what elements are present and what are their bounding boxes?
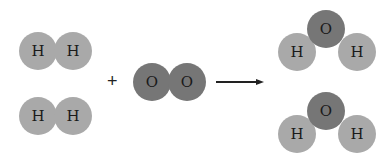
oxygen-atom: O (133, 63, 171, 101)
arrow-head-icon (256, 79, 264, 85)
hydrogen-atom: H (338, 115, 376, 153)
hydrogen-atom: H (19, 97, 57, 135)
hydrogen-atom: H (54, 97, 92, 135)
arrow-shaft (216, 81, 257, 83)
oxygen-atom: O (168, 63, 206, 101)
oxygen-atom: O (307, 92, 345, 130)
reaction-diagram: H H H H + O O H H O H H O (0, 0, 392, 161)
hydrogen-atom: H (54, 32, 92, 70)
hydrogen-atom: H (338, 33, 376, 71)
hydrogen-atom: H (19, 32, 57, 70)
oxygen-atom: O (307, 10, 345, 48)
plus-sign: + (107, 72, 118, 90)
